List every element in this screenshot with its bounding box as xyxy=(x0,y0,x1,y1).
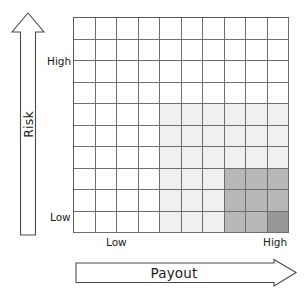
matrix-cell xyxy=(246,61,268,83)
matrix-cell xyxy=(246,126,268,148)
matrix-cell xyxy=(74,190,96,212)
matrix-cell xyxy=(225,18,247,40)
matrix-cell xyxy=(203,18,225,40)
matrix-cell xyxy=(268,147,290,169)
matrix-cell xyxy=(182,126,204,148)
matrix-cell xyxy=(268,61,290,83)
matrix-cell xyxy=(160,147,182,169)
matrix-cell xyxy=(246,190,268,212)
matrix-cell xyxy=(160,40,182,62)
matrix-cell xyxy=(246,104,268,126)
matrix-cell xyxy=(74,18,96,40)
matrix-cell xyxy=(96,190,118,212)
matrix-cell xyxy=(246,169,268,191)
y-axis-tick-high: High xyxy=(47,55,71,67)
matrix-cell xyxy=(246,212,268,234)
x-axis-tick-low: Low xyxy=(106,236,127,248)
matrix-cell xyxy=(96,147,118,169)
matrix-cell xyxy=(74,83,96,105)
matrix-cell xyxy=(74,126,96,148)
matrix-cell xyxy=(268,126,290,148)
matrix-cell xyxy=(117,147,139,169)
matrix-cell xyxy=(160,190,182,212)
matrix-cell xyxy=(139,126,161,148)
matrix-cell xyxy=(225,212,247,234)
matrix-cell xyxy=(117,18,139,40)
matrix-cell xyxy=(74,147,96,169)
matrix-cell xyxy=(203,212,225,234)
matrix-cell xyxy=(268,169,290,191)
matrix-cell xyxy=(139,18,161,40)
matrix-cell xyxy=(96,126,118,148)
matrix-cell xyxy=(182,18,204,40)
matrix-cell xyxy=(117,104,139,126)
risk-payout-matrix-figure: Risk High Low Low High Payout xyxy=(0,0,306,293)
matrix-cell xyxy=(203,83,225,105)
matrix-cell xyxy=(203,147,225,169)
risk-payout-grid xyxy=(73,17,289,233)
matrix-cell xyxy=(182,212,204,234)
matrix-cell xyxy=(160,83,182,105)
matrix-cell xyxy=(203,126,225,148)
matrix-cell xyxy=(182,169,204,191)
matrix-cell xyxy=(117,40,139,62)
matrix-cell xyxy=(139,169,161,191)
matrix-cell xyxy=(117,212,139,234)
matrix-cell xyxy=(96,18,118,40)
matrix-cell xyxy=(225,83,247,105)
matrix-cell xyxy=(182,190,204,212)
matrix-cell xyxy=(246,18,268,40)
matrix-cell xyxy=(225,190,247,212)
matrix-cell xyxy=(182,83,204,105)
y-axis-tick-low: Low xyxy=(50,211,71,223)
matrix-cell xyxy=(74,40,96,62)
matrix-cell xyxy=(268,104,290,126)
matrix-cell xyxy=(96,212,118,234)
matrix-cell xyxy=(160,212,182,234)
matrix-cell xyxy=(139,40,161,62)
matrix-cell xyxy=(160,169,182,191)
matrix-cell xyxy=(74,61,96,83)
matrix-cell xyxy=(182,147,204,169)
matrix-cell xyxy=(225,40,247,62)
matrix-cell xyxy=(160,18,182,40)
arrow-right-icon xyxy=(74,258,298,288)
matrix-cell xyxy=(225,169,247,191)
matrix-cell xyxy=(74,104,96,126)
matrix-cell xyxy=(96,40,118,62)
matrix-cell xyxy=(74,212,96,234)
matrix-cell xyxy=(160,61,182,83)
matrix-cell xyxy=(139,212,161,234)
matrix-cell xyxy=(74,169,96,191)
matrix-cell xyxy=(246,83,268,105)
risk-axis-arrow xyxy=(10,10,46,238)
matrix-cell xyxy=(203,169,225,191)
matrix-cell xyxy=(246,147,268,169)
arrow-up-icon xyxy=(10,10,46,238)
matrix-cell xyxy=(268,40,290,62)
matrix-cell xyxy=(139,190,161,212)
matrix-cell xyxy=(203,40,225,62)
matrix-cell xyxy=(160,126,182,148)
matrix-cell xyxy=(182,61,204,83)
matrix-cell xyxy=(160,104,182,126)
matrix-cell xyxy=(203,61,225,83)
matrix-cell xyxy=(182,40,204,62)
matrix-cell xyxy=(96,104,118,126)
matrix-cell xyxy=(182,104,204,126)
matrix-cell xyxy=(139,104,161,126)
matrix-cell xyxy=(225,126,247,148)
matrix-cell xyxy=(117,83,139,105)
matrix-cell xyxy=(96,83,118,105)
matrix-cell xyxy=(225,61,247,83)
matrix-cell xyxy=(139,147,161,169)
payout-axis-arrow xyxy=(74,258,298,288)
matrix-cell xyxy=(225,147,247,169)
matrix-cell xyxy=(268,83,290,105)
matrix-cell xyxy=(139,61,161,83)
matrix-cell xyxy=(246,40,268,62)
matrix-cell xyxy=(96,169,118,191)
matrix-cell xyxy=(268,18,290,40)
x-axis-tick-high: High xyxy=(263,236,287,248)
matrix-cell xyxy=(203,104,225,126)
